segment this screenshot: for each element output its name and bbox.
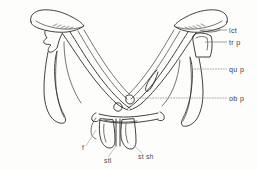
centre-symphysis-group [91,95,164,149]
label-ob-p: ob p [229,94,244,103]
right-bar-hook [158,112,164,121]
left-head-crease [36,21,82,29]
leader-lines-group [86,30,227,157]
right-hatch-1 [201,24,205,26]
right-horn-inner-line [183,58,191,121]
left-hatch-2 [57,25,61,27]
right-sternal-plate-inner [126,124,128,143]
leader-stsh [133,145,142,153]
label-tr-p: tr p [229,38,241,47]
right-lateral-horn [182,57,204,126]
label-stl: stl [104,157,112,164]
right-head-crease [176,21,222,29]
labels-group: lct tr p qu p ob p f stl st sh [82,26,244,164]
left-notched-process [44,31,62,52]
right-trp-notch [196,37,208,51]
right-hatch-4 [189,27,193,29]
left-bar-hook [92,113,98,122]
figure-panel: lct tr p qu p ob p f stl st sh [0,0,258,170]
right-arm-group [128,10,227,126]
right-hatch-3 [193,26,197,28]
right-hatch-2 [197,25,201,27]
left-horn-inner-line [56,52,64,117]
label-f: f [82,144,84,151]
left-hatch-1 [53,24,57,26]
left-body-mid [70,32,130,108]
left-hatch-3 [61,26,65,28]
right-distal-head [174,10,227,32]
right-inner-strut [129,30,174,94]
left-mid-ridge [64,42,81,103]
left-inner-strut [84,30,129,94]
left-sternal-plate [99,119,115,148]
centre-bar-upper [99,113,158,117]
anatomical-diagram: lct tr p qu p ob p f stl st sh [0,0,258,170]
label-lct: lct [229,26,237,35]
right-body-mid [128,32,188,108]
left-distal-head [31,10,84,32]
left-hatch-4 [65,27,69,29]
central-knob [126,95,135,104]
left-lateral-horn [44,51,66,123]
left-arm-group [31,10,130,123]
label-st-sh: st sh [138,153,154,160]
left-sternal-plate-inner [104,124,106,142]
label-qu-p: qu p [229,65,244,74]
right-mid-ridge [162,60,180,106]
